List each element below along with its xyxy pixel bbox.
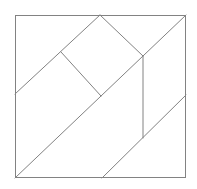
right-edge-to-bottom-edge-cut <box>102 95 186 178</box>
inner-square-lower-left-side <box>61 52 101 96</box>
inner-square-upper-right-side <box>100 15 143 56</box>
main-diagonal-bottomleft-to-topright <box>15 15 186 178</box>
tangram-diagram <box>0 0 197 189</box>
tangram-diagram-svg <box>0 0 197 189</box>
left-edge-to-top-apex <box>15 15 100 94</box>
